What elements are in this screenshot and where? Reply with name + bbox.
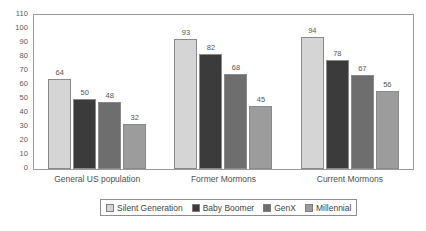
bar-group-bars: 94786756 — [287, 15, 413, 169]
y-axis-tick-label: 0 — [24, 164, 28, 172]
legend-label: Millennial — [316, 203, 351, 213]
x-axis-category-labels: General US populationFormer MormonsCurre… — [34, 174, 413, 188]
y-axis-tick-label: 40 — [19, 108, 28, 116]
bar-value-label: 78 — [333, 50, 341, 58]
y-axis-tick-label: 70 — [19, 66, 28, 74]
legend-item[interactable]: GenX — [263, 203, 296, 213]
bar-value-label: 32 — [130, 114, 138, 122]
legend-label: GenX — [274, 203, 296, 213]
bar-slot: 82 — [199, 15, 222, 169]
bar[interactable] — [224, 74, 247, 169]
bar-slot: 68 — [224, 15, 247, 169]
plot-area: 645048329382684594786756 — [34, 15, 413, 169]
bar-value-label: 67 — [358, 65, 366, 73]
legend-item[interactable]: Baby Boomer — [192, 203, 255, 213]
bar-value-label: 82 — [207, 44, 215, 52]
bar-slot: 94 — [301, 15, 324, 169]
bar-value-label: 45 — [257, 96, 265, 104]
y-axis-tick-label: 20 — [19, 136, 28, 144]
bar-value-label: 68 — [232, 64, 240, 72]
bar-slot: 56 — [376, 15, 399, 169]
y-axis-tick-label: 110 — [16, 10, 28, 18]
legend-label: Baby Boomer — [203, 203, 255, 213]
bar-slot: 32 — [123, 15, 146, 169]
x-axis-category-label: Current Mormons — [287, 174, 413, 185]
bar-chart: 0102030405060708090100110 64504832938268… — [0, 0, 426, 231]
bar-value-label: 93 — [182, 29, 190, 37]
legend-swatch-icon — [192, 204, 200, 212]
bar-slot: 78 — [326, 15, 349, 169]
y-axis-tick-label: 10 — [19, 150, 28, 158]
bar-value-label: 50 — [80, 89, 88, 97]
legend-swatch-icon — [305, 204, 313, 212]
bar[interactable] — [123, 124, 146, 169]
bar[interactable] — [174, 39, 197, 169]
bar-slot: 67 — [351, 15, 374, 169]
bar-group: 93826845 — [160, 15, 286, 169]
legend-swatch-icon — [106, 204, 114, 212]
bar-value-label: 94 — [308, 27, 316, 35]
bar-value-label: 64 — [55, 69, 63, 77]
bar[interactable] — [376, 91, 399, 169]
x-axis-category-label: General US population — [34, 174, 160, 185]
bar-slot: 48 — [98, 15, 121, 169]
bar[interactable] — [249, 106, 272, 169]
y-axis-tick-label: 100 — [15, 24, 28, 32]
y-axis-tick-label: 60 — [19, 80, 28, 88]
bar-value-label: 48 — [105, 92, 113, 100]
legend-item[interactable]: Silent Generation — [106, 203, 183, 213]
y-axis: 0102030405060708090100110 — [0, 14, 31, 170]
bar[interactable] — [326, 60, 349, 169]
bar[interactable] — [199, 54, 222, 169]
y-axis-tick-label: 90 — [19, 38, 28, 46]
bar[interactable] — [351, 75, 374, 169]
legend-label: Silent Generation — [117, 203, 183, 213]
bar[interactable] — [98, 102, 121, 169]
legend-swatch-icon — [263, 204, 271, 212]
bar-slot: 50 — [73, 15, 96, 169]
bar-group-bars: 93826845 — [160, 15, 286, 169]
y-axis-tick-label: 50 — [19, 94, 28, 102]
bar[interactable] — [48, 79, 71, 169]
bar-group: 94786756 — [287, 15, 413, 169]
bar-slot: 45 — [249, 15, 272, 169]
bar[interactable] — [73, 99, 96, 169]
bar-value-label: 56 — [383, 81, 391, 89]
bar-slot: 93 — [174, 15, 197, 169]
bar-slot: 64 — [48, 15, 71, 169]
bar-group: 64504832 — [34, 15, 160, 169]
bar-group-bars: 64504832 — [34, 15, 160, 169]
chart-legend: Silent GenerationBaby BoomerGenXMillenni… — [100, 199, 357, 216]
x-axis-category-label: Former Mormons — [160, 174, 286, 185]
y-axis-tick-label: 30 — [19, 122, 28, 130]
y-axis-tick-label: 80 — [19, 52, 28, 60]
legend-item[interactable]: Millennial — [305, 203, 351, 213]
bar[interactable] — [301, 37, 324, 169]
